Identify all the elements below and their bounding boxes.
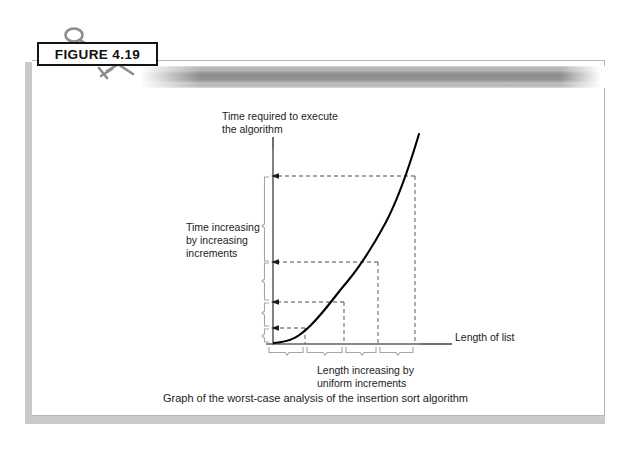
brush-fade-right (560, 66, 605, 88)
frame-bottom-bar (25, 415, 605, 424)
x-brace-label: Length increasing by uniform increments (317, 364, 414, 390)
x-axis-title: Length of list (455, 331, 515, 344)
figure-label-text: FIGURE 4.19 (55, 47, 140, 62)
figure-page: FIGURE 4.19 (0, 0, 631, 468)
y-axis-title: Time required to execute the algorithm (222, 110, 338, 136)
y-brace-label: Time increasing by increasing increments (186, 221, 260, 260)
figure-label-box: FIGURE 4.19 (37, 42, 158, 66)
figure-caption: Graph of the worst-case analysis of the … (0, 392, 631, 404)
brush-stroke-band (140, 66, 602, 88)
